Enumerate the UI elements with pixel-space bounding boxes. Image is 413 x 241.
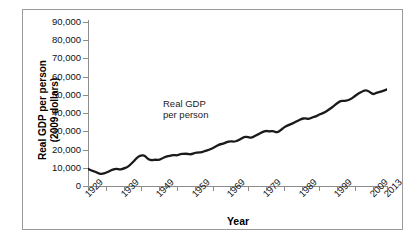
y-axis-tick-label: 0 (76, 181, 81, 190)
y-axis-title-line2: (2009 dollars) (49, 78, 60, 142)
y-axis-title-line1: Real GDP per person (37, 60, 48, 160)
x-axis-tick (284, 186, 285, 191)
x-axis-tick (106, 186, 107, 191)
x-axis-tick (248, 186, 249, 191)
figure-real-gdp-per-person: 010,00020,00030,00040,00050,00060,00070,… (0, 0, 413, 241)
y-axis-tick-label: 90,000 (52, 17, 81, 26)
x-axis-tick (319, 186, 320, 191)
data-line-real-gdp-per-person (88, 89, 387, 173)
x-axis-tick (141, 186, 142, 191)
x-axis-tick (177, 186, 178, 191)
x-axis-tick (213, 186, 214, 191)
plot-area (88, 22, 387, 186)
x-axis-title: Year (88, 215, 388, 227)
x-axis-tick (355, 186, 356, 191)
y-axis-title: Real GDP per person (2009 dollars) (24, 30, 70, 170)
